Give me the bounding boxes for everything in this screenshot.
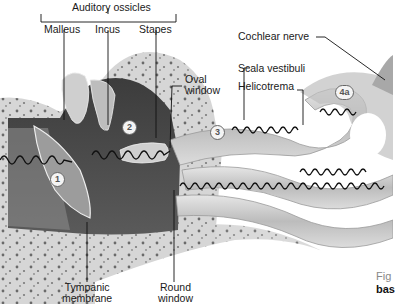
malleus-label: Malleus (44, 24, 80, 35)
round-line2: window (158, 293, 193, 304)
stapes-label: Stapes (139, 24, 172, 35)
figure-caption-title: bas (376, 283, 395, 295)
tympanic-line2: membrane (62, 293, 112, 304)
tympanic-membrane-label: Tympanic membrane (62, 282, 112, 304)
step-marker-4a: 4a (335, 85, 354, 100)
step-marker-1: 1 (50, 172, 65, 187)
step-marker-3: 3 (210, 125, 225, 140)
oval-window-line2: window (185, 85, 220, 96)
scala-vestibuli-label: Scala vestibuli (238, 63, 305, 74)
helicotrema-label: Helicotrema (238, 81, 294, 92)
cochlear-nerve-label: Cochlear nerve (238, 31, 309, 42)
oval-window-label: Oval window (185, 74, 220, 96)
round-window-label: Round window (158, 282, 193, 304)
step-marker-2: 2 (122, 120, 137, 135)
auditory-ossicles-label: Auditory ossicles (72, 2, 151, 13)
incus-label: Incus (95, 24, 120, 35)
figure-caption-label: Fig (376, 270, 391, 282)
